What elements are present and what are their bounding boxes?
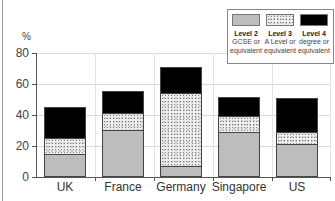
bar-germany <box>160 67 202 177</box>
y-tick-label: 60 <box>16 77 29 91</box>
bar-uk <box>44 107 86 177</box>
bar-segment-level2 <box>160 166 202 177</box>
legend-title: Level 3 <box>262 30 298 37</box>
frame-border <box>2 0 3 201</box>
bar-segment-level4 <box>102 91 144 113</box>
legend-item-level3: Level 3 A Level or equivalent <box>262 14 298 55</box>
legend-swatch-level3 <box>266 14 294 26</box>
bar-singapore <box>218 97 260 177</box>
bar-segment-level2 <box>276 144 318 177</box>
legend-title: Level 2 <box>228 30 264 37</box>
y-tick <box>32 177 36 178</box>
bar-france <box>102 91 144 177</box>
legend-swatch-level4 <box>300 14 328 26</box>
bar-segment-level4 <box>160 67 202 93</box>
bar-segment-level3 <box>102 113 144 130</box>
plot-area: 80 60 40 20 0 <box>36 53 331 177</box>
legend-subtitle: GCSE or <box>228 37 264 46</box>
y-tick <box>32 53 36 54</box>
vertical-gridline <box>272 53 273 177</box>
x-label-us: US <box>262 180 332 194</box>
bar-segment-level3 <box>218 116 260 132</box>
bar-segment-level4 <box>276 98 318 132</box>
x-axis <box>36 177 331 178</box>
legend-swatch-level2 <box>232 14 260 26</box>
legend-subtitle: equivalent <box>228 46 264 55</box>
y-axis <box>36 53 37 178</box>
y-tick <box>32 84 36 85</box>
y-tick-label: 0 <box>22 170 29 184</box>
bar-segment-level3 <box>276 132 318 144</box>
legend-subtitle: A Level or <box>262 37 298 46</box>
bar-segment-level2 <box>102 130 144 177</box>
legend-item-level2: Level 2 GCSE or equivalent <box>228 14 264 55</box>
legend-item-level4: Level 4 degree or equivalent <box>296 14 332 55</box>
y-axis-unit: % <box>22 31 31 42</box>
bar-us <box>276 98 318 177</box>
vertical-gridline <box>154 53 155 177</box>
legend-subtitle: equivalent <box>296 46 332 55</box>
vertical-gridline <box>330 53 331 177</box>
bar-segment-level3 <box>160 93 202 166</box>
bar-segment-level2 <box>218 132 260 177</box>
y-tick-label: 80 <box>16 46 29 60</box>
bar-segment-level3 <box>44 138 86 154</box>
legend-title: Level 4 <box>296 30 332 37</box>
y-tick-label: 20 <box>16 139 29 153</box>
y-tick <box>32 115 36 116</box>
vertical-gridline <box>213 53 214 177</box>
legend: Level 2 GCSE or equivalent Level 3 A Lev… <box>227 9 334 64</box>
bar-segment-level4 <box>218 97 260 116</box>
bar-segment-level2 <box>44 154 86 177</box>
legend-subtitle: degree or <box>296 37 332 46</box>
vertical-gridline <box>95 53 96 177</box>
bar-segment-level4 <box>44 107 86 138</box>
legend-subtitle: equivalent <box>262 46 298 55</box>
y-tick <box>32 146 36 147</box>
y-tick-label: 40 <box>16 108 29 122</box>
